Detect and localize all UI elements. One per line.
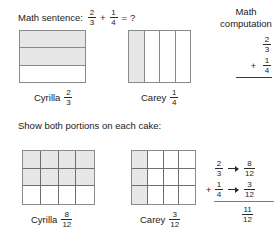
- fraction-denominator: 4: [216, 190, 222, 199]
- caption-carey-twelfths: Carey 3 12: [140, 210, 181, 229]
- computation-sum-rule: [214, 201, 274, 202]
- caption-cyrilla-twelfths: Cyrilla 8 12: [31, 210, 73, 229]
- fraction-denominator: 3: [89, 18, 95, 27]
- fraction-numerator: 1: [216, 180, 222, 189]
- grid-cell-shaded: [76, 169, 94, 187]
- fraction-numerator: 8: [64, 210, 70, 219]
- cake-cyrilla-twelfths: [22, 150, 95, 205]
- fraction-denominator: 3: [264, 45, 270, 54]
- fraction-numerator: 8: [246, 159, 252, 168]
- math-sentence-label: Math sentence:: [18, 12, 83, 23]
- grid-cell-empty: [164, 169, 180, 187]
- fraction-denominator: 4: [264, 66, 270, 75]
- caption-name: Carey: [140, 214, 165, 225]
- computation-addend-row: + 1 4: [222, 55, 272, 76]
- grid-cell-empty: [41, 186, 59, 204]
- fraction-denominator: 12: [61, 220, 72, 229]
- computation-addend-2: 1 4: [263, 56, 271, 75]
- cake-slice-shaded: [20, 47, 85, 64]
- grid-cell-empty: [76, 186, 94, 204]
- math-sentence-fraction-a: 2 3: [88, 8, 96, 27]
- cake-slice-empty: [175, 31, 191, 82]
- fraction-numerator: 11: [242, 205, 252, 214]
- conversion-source-2: 1 4: [215, 180, 223, 199]
- grid-cell-shaded: [76, 151, 94, 169]
- grid-cell-shaded: [23, 151, 41, 169]
- fraction-numerator: 1: [110, 8, 116, 17]
- conversion-row-2: + 1 4 3 12: [206, 179, 274, 200]
- conversion-row-1: 2 3 8 12: [206, 158, 274, 179]
- grid-cell-shaded: [23, 169, 41, 187]
- grid-cell-empty: [179, 151, 195, 169]
- fraction-denominator: 3: [216, 169, 222, 178]
- math-computation-heading-line2: computation: [212, 18, 280, 30]
- computation-plus-sign: +: [251, 61, 256, 71]
- computation-total: 11 12: [242, 205, 253, 224]
- fraction-denominator: 12: [244, 169, 255, 178]
- computation-plus-sign: +: [206, 185, 214, 195]
- math-sentence-equals: =: [122, 12, 128, 23]
- caption-fraction: 2 3: [64, 88, 72, 107]
- caption-name: Carey: [141, 92, 166, 103]
- caption-fraction: 1 4: [170, 88, 178, 107]
- fraction-numerator: 2: [264, 35, 270, 44]
- grid-cell-empty: [179, 169, 195, 187]
- math-computation-bottom: 2 3 8 12 + 1 4 3 12 11 12: [206, 158, 274, 224]
- fraction-denominator: 12: [242, 215, 253, 224]
- grid-cell-shaded: [132, 169, 148, 187]
- grid-cell-shaded: [59, 151, 77, 169]
- section-heading: Show both portions on each cake:: [18, 120, 161, 131]
- math-sentence: Math sentence: 2 3 + 1 4 = ?: [18, 8, 135, 27]
- cake-carey-twelfths: [131, 150, 196, 205]
- conversion-result-1: 8 12: [244, 159, 255, 178]
- arrow-right-icon: [228, 187, 239, 193]
- math-computation-top: + 2 3 + 1 4: [222, 34, 272, 78]
- grid-cell-shaded: [41, 151, 59, 169]
- math-computation-heading: Math computation: [212, 6, 280, 30]
- arrow-right-icon: [228, 166, 239, 172]
- conversion-result-2: 3 12: [244, 180, 255, 199]
- cake-slice-shaded: [20, 31, 85, 47]
- computation-addend-1: 2 3: [263, 35, 271, 54]
- grid-cell-shaded: [132, 186, 148, 204]
- grid-cell-empty: [59, 186, 77, 204]
- grid-cell-shaded: [132, 151, 148, 169]
- fraction-denominator: 12: [244, 190, 255, 199]
- grid-cell-shaded: [41, 169, 59, 187]
- math-sentence-operator: +: [100, 12, 106, 23]
- cake-slice-shaded: [129, 31, 144, 82]
- computation-total-row: 11 12: [206, 205, 274, 224]
- fraction-numerator: 2: [65, 88, 71, 97]
- math-computation-heading-line1: Math: [212, 6, 280, 18]
- cake-slice-empty: [144, 31, 160, 82]
- math-sentence-fraction-b: 1 4: [110, 8, 118, 27]
- conversion-source-1: 2 3: [215, 159, 223, 178]
- grid-cell-empty: [179, 186, 195, 204]
- cake-cyrilla-thirds: [19, 30, 86, 83]
- fraction-denominator: 4: [171, 98, 177, 107]
- fraction-denominator: 4: [110, 18, 116, 27]
- fraction-numerator: 1: [171, 88, 177, 97]
- cake-carey-fourths: [128, 30, 191, 83]
- fraction-numerator: 3: [172, 210, 178, 219]
- cake-slice-empty: [159, 31, 175, 82]
- fraction-denominator: 12: [169, 220, 180, 229]
- grid-cell-empty: [148, 186, 164, 204]
- math-sentence-question-mark: ?: [130, 12, 135, 23]
- grid-cell-empty: [164, 151, 180, 169]
- fraction-numerator: 2: [89, 8, 95, 17]
- caption-fraction: 8 12: [61, 210, 72, 229]
- fraction-numerator: 1: [264, 56, 270, 65]
- computation-sum-rule: [236, 77, 272, 78]
- fraction-denominator: 3: [65, 98, 71, 107]
- caption-name: Cyrilla: [34, 92, 60, 103]
- grid-cell-empty: [23, 186, 41, 204]
- caption-name: Cyrilla: [31, 214, 57, 225]
- grid-cell-empty: [148, 169, 164, 187]
- caption-cyrilla-thirds: Cyrilla 2 3: [34, 88, 73, 107]
- computation-addend-row: + 2 3: [222, 34, 272, 55]
- grid-cell-empty: [164, 186, 180, 204]
- grid-cell-shaded: [59, 169, 77, 187]
- grid-cell-empty: [148, 151, 164, 169]
- fraction-numerator: 3: [246, 180, 252, 189]
